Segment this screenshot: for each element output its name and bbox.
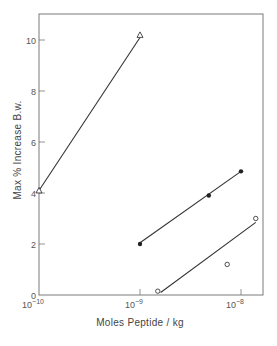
filled-circle-fit-line — [140, 171, 241, 242]
open-circle-fit-line — [161, 222, 256, 292]
open-triangle-fit-line — [39, 37, 140, 190]
y-axis-label: Max % Increase B.w. — [12, 100, 23, 199]
open-circle-marker — [156, 289, 160, 293]
open-circle-marker — [254, 216, 258, 220]
filled-circle-marker — [138, 242, 142, 246]
x-tick-label: 10−9 — [125, 298, 143, 310]
chart: 0246810 10−1010−910−8 Moles Peptide / kg… — [0, 0, 277, 346]
filled-circle-marker — [207, 193, 211, 197]
y-tick-label: 6 — [31, 138, 36, 148]
y-axis-ticks: 0246810 — [26, 36, 45, 301]
x-axis-label: Moles Peptide / kg — [96, 317, 184, 328]
x-tick-label: 10−10 — [22, 298, 44, 310]
x-axis-ticks: 10−1010−910−8 — [22, 289, 244, 310]
y-tick-label: 10 — [26, 36, 36, 46]
x-tick-label: 10−8 — [226, 298, 244, 310]
open-triangle-marker — [137, 32, 143, 38]
data-markers — [36, 32, 258, 293]
open-circle-marker — [225, 262, 229, 266]
y-tick-label: 8 — [31, 87, 36, 97]
y-tick-label: 2 — [31, 240, 36, 250]
open-triangle-marker — [36, 187, 42, 193]
fit-lines — [39, 37, 256, 292]
filled-circle-marker — [239, 169, 243, 173]
y-tick-label: 4 — [31, 189, 36, 199]
plot-frame — [39, 14, 263, 295]
